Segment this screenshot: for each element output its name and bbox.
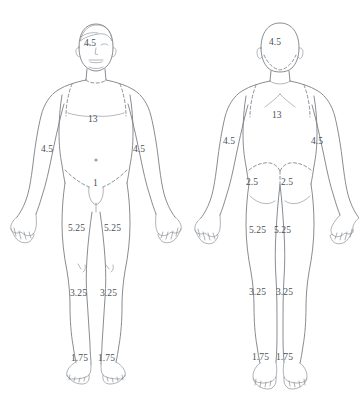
front-left-leg-inner: [86, 212, 92, 364]
back-right-leg-outer: [300, 184, 314, 363]
front-right-foot: [101, 362, 125, 379]
back-right-gluteal-fold: [285, 196, 310, 204]
front-right-shoulder-divider: [120, 84, 126, 116]
back-right-hand-edge: [330, 230, 353, 244]
front-chin: [89, 67, 103, 69]
front-right-knee-mark-1: [106, 265, 109, 269]
back-right-leg-percent: 3.25: [276, 288, 293, 298]
front-left-hand: [11, 214, 37, 236]
back-torso-left-side: [243, 96, 249, 184]
back-trunk-percent: 13: [272, 111, 282, 121]
back-right-finger-4: [335, 233, 337, 239]
front-right-hand: [156, 214, 182, 236]
front-right-groin-divider: [103, 170, 127, 187]
front-left-leg-outer: [62, 183, 76, 362]
front-left-groin-divider: [65, 170, 89, 187]
front-lower-lip: [90, 62, 102, 63]
body-diagrams-svg: [0, 0, 359, 394]
back-left-leg-percent: 3.25: [249, 288, 266, 298]
front-right-leg-outer: [116, 183, 130, 362]
front-left-leg-percent: 3.25: [70, 289, 87, 299]
front-eye-right: [101, 44, 108, 45]
front-right-thigh-percent: 5.25: [104, 224, 121, 234]
back-right-toe-2: [299, 381, 300, 387]
front-right-toe-2: [117, 377, 118, 381]
front-left-foot-percent: 1.75: [71, 354, 88, 364]
front-left-foot-sole: [67, 375, 89, 384]
back-right-arm-outer: [290, 81, 359, 218]
back-right-buttock-divider: [280, 163, 311, 171]
back-left-finger-1: [198, 229, 200, 237]
back-right-buttock-percent: 2.5: [281, 178, 293, 188]
back-left-toe-2: [260, 381, 261, 387]
front-right-foot-sole: [103, 375, 125, 384]
back-left-leg-inner: [275, 185, 280, 362]
front-figure: [11, 24, 181, 384]
front-neck-right: [105, 69, 106, 80]
front-right-finger-4: [161, 232, 163, 238]
back-left-arm-percent: 4.5: [223, 137, 235, 147]
front-left-knee-mark-2: [83, 265, 85, 272]
front-left-arm-percent: 4.5: [41, 145, 53, 155]
front-torso-left-side: [59, 95, 65, 183]
front-genitalia-percent: 1: [93, 179, 98, 189]
front-right-foot-percent: 1.75: [98, 354, 115, 364]
back-head-percent: 4.5: [269, 38, 281, 48]
back-right-thigh-percent: 5.25: [274, 226, 291, 236]
back-scapula-left: [265, 94, 280, 107]
back-right-foot-percent: 1.75: [276, 353, 293, 363]
front-left-foot: [67, 362, 91, 379]
front-genital-outline: [89, 187, 104, 205]
back-neck-right: [289, 71, 290, 81]
back-left-foot-percent: 1.75: [252, 353, 269, 363]
front-nose: [95, 48, 98, 55]
front-right-leg-percent: 3.25: [100, 289, 117, 299]
front-left-knee-mark-1: [78, 264, 81, 269]
front-pectoral-right: [97, 113, 124, 116]
back-right-leg-inner: [280, 185, 285, 362]
back-left-thigh-percent: 5.25: [249, 226, 266, 236]
front-left-shoulder-divider: [66, 84, 72, 116]
back-left-buttock-percent: 2.5: [246, 178, 258, 188]
back-right-arm-percent: 4.5: [311, 137, 323, 147]
front-trunk-percent: 13: [88, 115, 98, 125]
back-left-gluteal-fold: [250, 196, 275, 204]
front-left-finger-4: [29, 232, 31, 238]
front-neck-left: [86, 69, 87, 80]
back-left-finger-4: [213, 233, 215, 239]
front-navel: [94, 158, 97, 161]
back-figure: [195, 23, 359, 389]
back-neck-base: [270, 81, 290, 84]
back-head-outline: [261, 23, 299, 72]
back-left-shoulder-divider: [250, 85, 256, 117]
front-torso-right-side: [127, 95, 133, 183]
front-left-finger-1: [14, 228, 16, 236]
back-left-leg-outer: [246, 184, 260, 363]
back-head-divider: [264, 55, 296, 70]
front-right-finger-1: [176, 228, 178, 236]
back-right-shoulder-divider: [304, 85, 310, 117]
back-scapula-right: [280, 94, 295, 107]
back-right-hand: [331, 215, 359, 237]
burn-assessment-chart: 4.5 13 4.5 4.5 1 5.25 5.25 3.25 3.25 1.7…: [0, 0, 359, 394]
back-right-foot: [283, 362, 307, 383]
front-neck-divider: [86, 80, 106, 83]
back-left-buttock-divider: [249, 163, 280, 171]
front-right-knee-mark-2: [111, 265, 113, 272]
back-left-arm-outer: [201, 81, 270, 218]
front-left-thigh-percent: 5.25: [68, 224, 85, 234]
back-left-foot: [253, 362, 277, 383]
front-right-arm-percent: 4.5: [133, 145, 145, 155]
front-head-percent: 4.5: [84, 39, 96, 49]
back-left-hand: [195, 215, 221, 237]
front-left-toe-2: [74, 377, 75, 381]
back-neck-left: [270, 71, 271, 81]
